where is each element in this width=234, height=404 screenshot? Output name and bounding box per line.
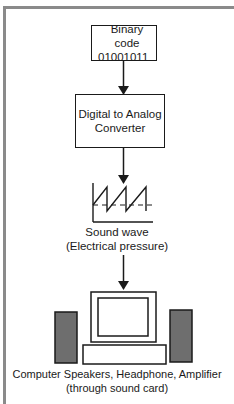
- sound-wave-sublabel: (Electrical pressure): [0, 239, 234, 253]
- monitor-screen-icon: [98, 298, 148, 336]
- output-devices-label: Computer Speakers, Headphone, Amplifier: [0, 367, 234, 381]
- speaker-right-icon: [170, 310, 192, 362]
- output-devices-sublabel: (through sound card): [0, 381, 234, 395]
- arrow-binary-to-dac: [118, 61, 129, 95]
- diagram-graphics: [0, 0, 234, 404]
- speaker-left-icon: [55, 312, 77, 363]
- arrow-wave-to-output: [118, 255, 129, 290]
- sound-wave-label: Sound wave: [0, 225, 234, 239]
- computer-with-speakers-icon: [55, 292, 192, 364]
- keyboard-icon: [83, 345, 166, 364]
- arrow-dac-to-wave: [118, 148, 129, 184]
- sawtooth-wave-icon: [93, 183, 153, 222]
